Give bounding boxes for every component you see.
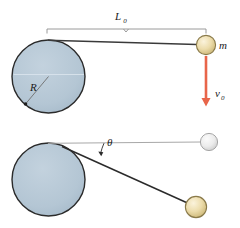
length-label-main: L xyxy=(114,10,121,22)
mass-label: m xyxy=(219,39,227,51)
radius-label: R xyxy=(29,81,37,93)
ball-reference xyxy=(200,133,217,150)
radius-endpoint-dot xyxy=(24,102,28,106)
angle-label: θ xyxy=(107,136,113,148)
length-label-subscript: 0 xyxy=(123,17,127,25)
ball-top xyxy=(196,35,215,54)
cylinder-bottom xyxy=(12,143,85,216)
ball-rotated xyxy=(185,196,206,217)
physics-diagram: L 0 R m v 0 θ xyxy=(0,0,240,228)
velocity-label-subscript: 0 xyxy=(221,94,225,102)
diagram-canvas: L 0 R m v 0 θ xyxy=(0,0,240,228)
velocity-label-main: v xyxy=(215,87,220,99)
